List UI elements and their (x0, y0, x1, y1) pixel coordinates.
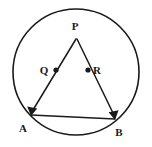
point-marker-r (85, 67, 90, 72)
point-label-a: A (19, 122, 27, 134)
geometry-canvas: P Q R A B (0, 0, 152, 147)
segment-a-b (31, 115, 115, 119)
point-label-q: Q (40, 64, 49, 76)
point-label-p: P (72, 20, 79, 32)
segment-p-b (77, 39, 113, 113)
point-label-b: B (115, 126, 123, 138)
geometry-diagram: P Q R A B (0, 0, 152, 147)
point-marker-q (53, 67, 58, 72)
point-label-r: R (93, 64, 102, 76)
